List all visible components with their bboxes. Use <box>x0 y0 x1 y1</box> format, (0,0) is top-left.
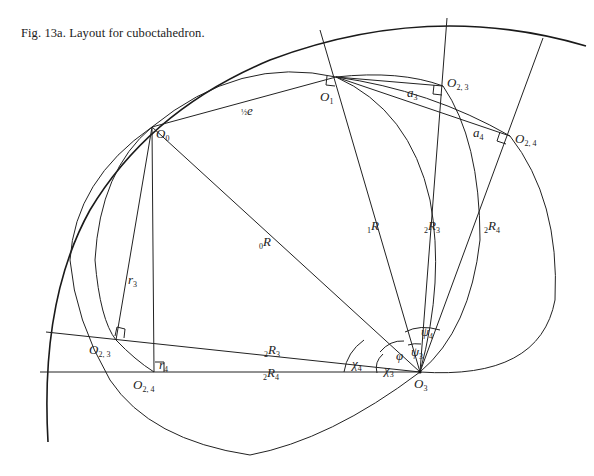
point-O3 <box>418 370 421 373</box>
circle-inner <box>336 75 480 372</box>
label-2R4-upper: 2R4 <box>484 218 500 235</box>
radius-0R <box>152 127 420 372</box>
radius-2R4-upper <box>420 38 543 372</box>
label-O24-upper: O2, 4 <box>515 131 536 148</box>
label-2R4-lower: 2R4 <box>263 365 279 382</box>
label-O0: O0 <box>156 126 169 143</box>
label-a4: a4 <box>473 125 484 142</box>
label-O1: O1 <box>320 89 333 106</box>
right-angle-O23-upper <box>433 85 442 95</box>
circle-main <box>70 72 555 455</box>
label-psi4: ψ4 <box>421 324 433 341</box>
label-chi3: χ3 <box>382 362 394 379</box>
label-half-e: ½e <box>241 103 253 118</box>
label-0R: 0R <box>259 234 271 251</box>
segment-r4 <box>152 127 154 372</box>
segment-r3 <box>116 127 152 340</box>
radius-2R3-upper <box>420 18 447 372</box>
label-phi: φ <box>396 348 403 363</box>
segment-half-e <box>152 77 336 127</box>
label-r4: r4 <box>159 357 168 374</box>
label-2R3-upper: 2R3 <box>424 218 440 235</box>
label-2R3-lower: 2R3 <box>264 342 280 359</box>
radius-1R <box>320 30 420 372</box>
label-1R: 1R <box>367 218 379 235</box>
outer-arc <box>47 26 586 442</box>
angle-arc-chi3 <box>376 354 383 373</box>
label-O3: O3 <box>414 376 427 393</box>
label-O23-upper: O2, 3 <box>447 75 468 92</box>
label-chi4: χ4 <box>350 356 362 373</box>
label-r3: r3 <box>128 272 137 289</box>
label-O23-lower: O2, 3 <box>89 342 110 359</box>
cuboctahedron-layout-diagram: O0 O1 O2, 3 O2, 4 O2, 3 O2, 4 O3 ½e a3 a… <box>0 0 594 476</box>
label-O24-lower: O2, 4 <box>133 377 154 394</box>
segment-a4 <box>336 77 510 136</box>
label-a3: a3 <box>407 85 418 102</box>
label-psi3: ψ3 <box>411 344 423 361</box>
